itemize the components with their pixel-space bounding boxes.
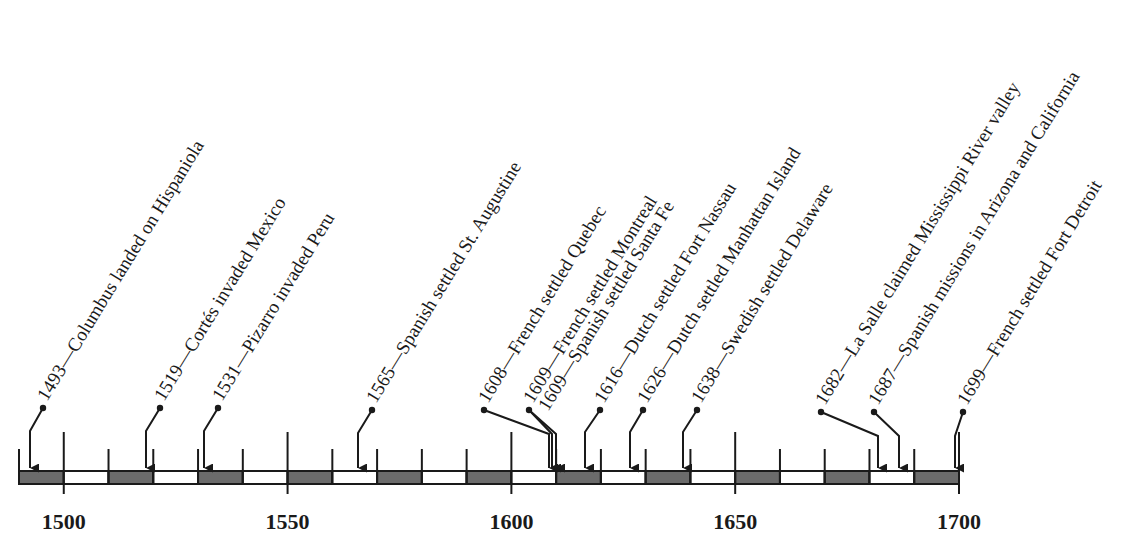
event-marker: [630, 407, 646, 468]
leader-dot-icon: [40, 405, 46, 411]
decade-segment: [780, 471, 825, 484]
leader-arrow: [630, 410, 643, 468]
event-marker: [683, 407, 700, 468]
leader-dot-icon: [694, 407, 700, 413]
decade-segment: [64, 471, 109, 484]
leader-dot-icon: [960, 409, 966, 415]
decade-segment: [332, 471, 377, 484]
event-leaders: [30, 405, 966, 468]
decade-segment: [153, 471, 198, 484]
axis-year-label: 1550: [266, 509, 310, 534]
leader-dot-icon: [818, 409, 824, 415]
timeline-bar: [19, 471, 959, 484]
event-marker: [358, 407, 375, 468]
event-labels: 1493—Columbus landed on Hispaniola1519—C…: [33, 67, 1107, 414]
decade-segment: [198, 471, 243, 484]
axis-year-label: 1650: [713, 509, 757, 534]
event-label: 1699—French settled Fort Detroit: [953, 176, 1107, 409]
decade-segment: [377, 471, 422, 484]
leader-dot-icon: [640, 407, 646, 413]
axis-year-label: 1500: [42, 509, 86, 534]
leader-arrow: [30, 408, 43, 468]
axis-year-label: 1700: [937, 509, 981, 534]
decade-segment: [243, 471, 288, 484]
event-marker: [146, 405, 163, 468]
decade-segment: [735, 471, 780, 484]
leader-arrow: [204, 408, 218, 468]
decade-segment: [556, 471, 601, 484]
event-marker: [204, 405, 221, 468]
decade-segment: [422, 471, 467, 484]
leader-dot-icon: [597, 407, 603, 413]
decade-segment: [467, 471, 512, 484]
axis-labels: 15001550160016501700: [42, 509, 981, 534]
axis-year-label: 1600: [489, 509, 533, 534]
timeline-diagram: 15001550160016501700 1493—Columbus lande…: [0, 0, 1148, 547]
decade-segment: [19, 471, 64, 484]
event-marker: [481, 407, 549, 468]
decade-segment: [109, 471, 154, 484]
decade-segment: [869, 471, 914, 484]
decade-segment: [825, 471, 870, 484]
decade-segment: [690, 471, 735, 484]
leader-dot-icon: [215, 405, 221, 411]
decade-segment: [646, 471, 691, 484]
event-marker: [955, 409, 966, 468]
decade-segment: [601, 471, 646, 484]
leader-dot-icon: [157, 405, 163, 411]
leader-dot-icon: [871, 409, 877, 415]
decade-segment: [914, 471, 959, 484]
leader-dot-icon: [481, 407, 487, 413]
event-marker: [30, 405, 46, 468]
event-marker: [871, 409, 899, 468]
leader-arrow: [585, 410, 600, 468]
leader-arrow: [358, 410, 372, 468]
decade-segment: [511, 471, 556, 484]
decade-segment: [288, 471, 333, 484]
leader-dot-icon: [369, 407, 375, 413]
